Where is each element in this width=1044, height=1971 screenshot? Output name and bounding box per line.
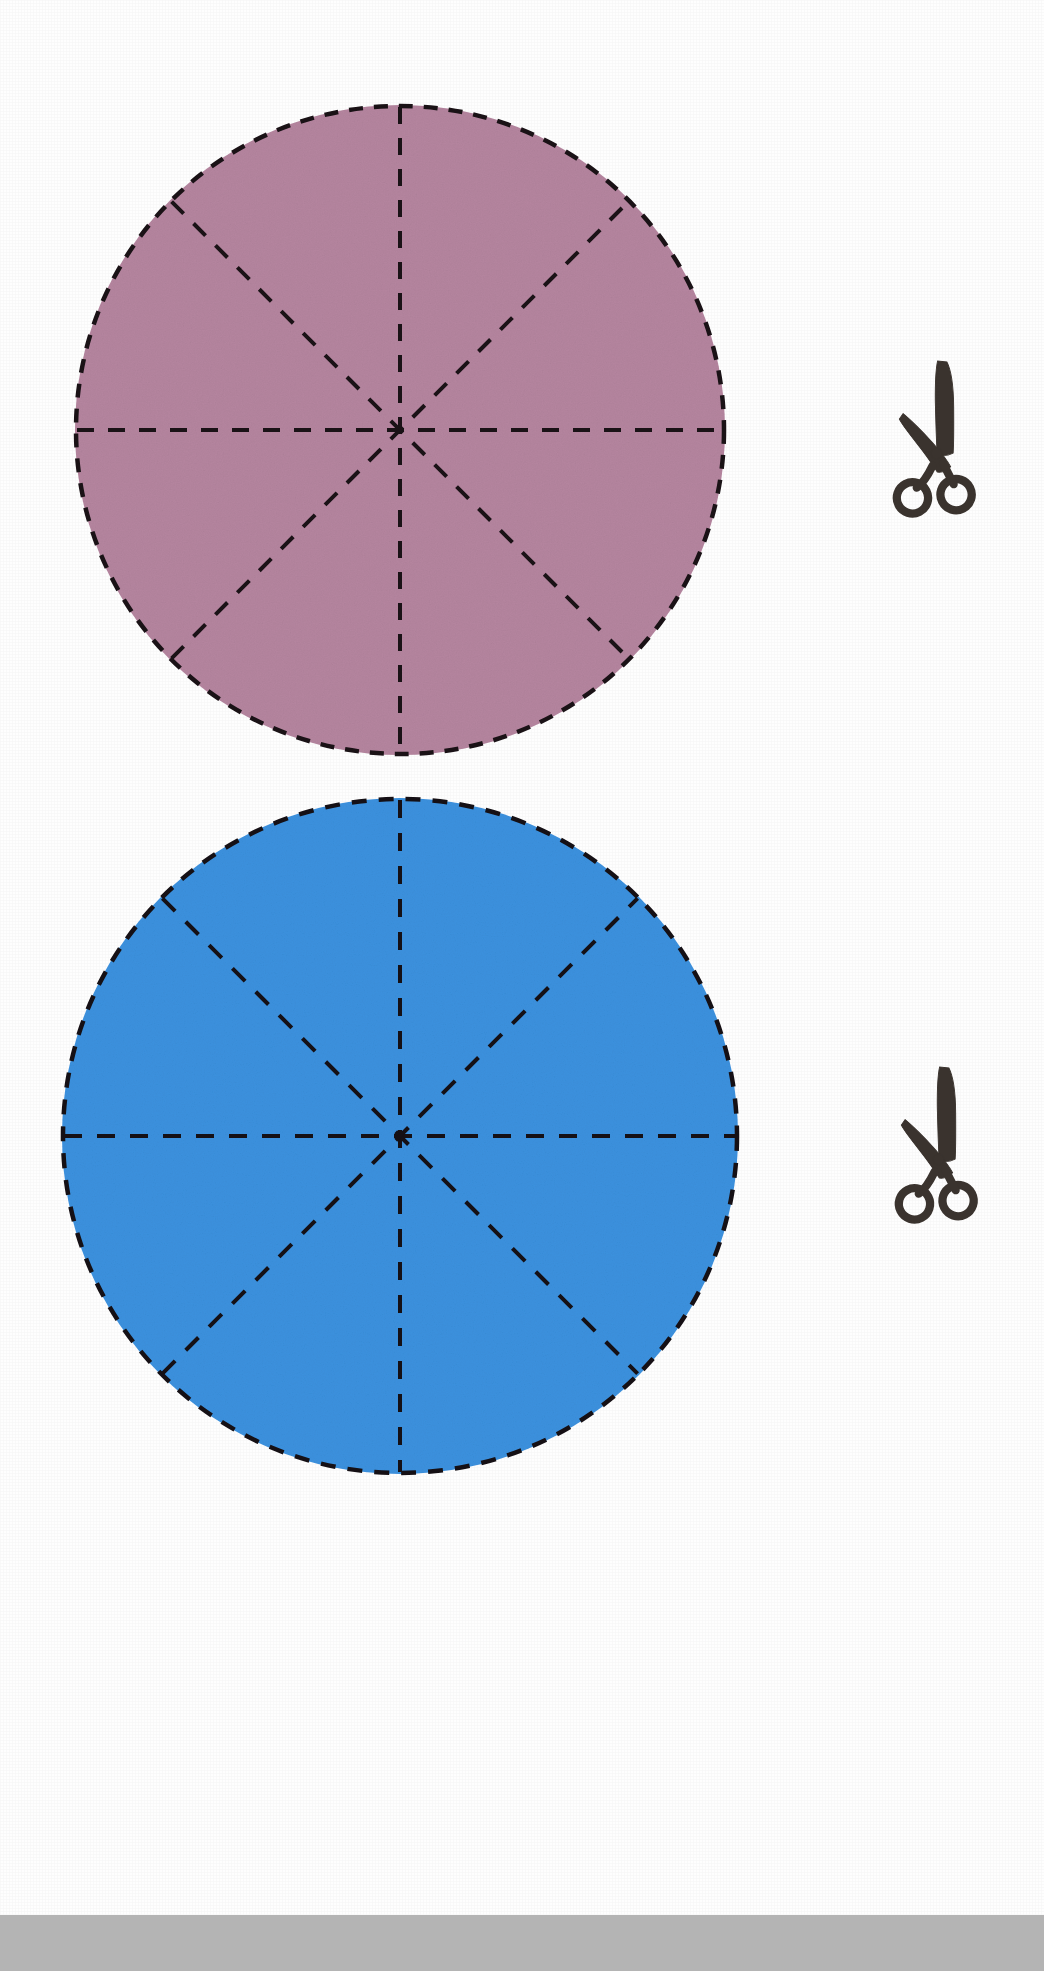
scanner-bed-edge — [0, 1915, 1044, 1971]
paper-texture — [0, 0, 1044, 1915]
worksheet-page: Pink fraction circle Blue fraction circl… — [0, 0, 1044, 1971]
paper-sheet — [0, 0, 1044, 1915]
